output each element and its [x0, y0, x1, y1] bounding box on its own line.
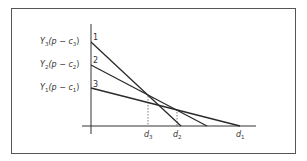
y-label-1: Y3(p − c3) [40, 37, 79, 47]
x-label-d2: d2 [173, 130, 182, 140]
x-label-d1: d1 [236, 130, 245, 140]
diagram-canvas: Y3(p − c3) Y2(p − c2) Y1(p − c1) 1 2 3 d… [0, 0, 307, 161]
line-3 [91, 88, 240, 126]
line-2 [91, 65, 207, 126]
x-label-d3: d3 [144, 130, 153, 140]
line-2-number: 2 [93, 56, 98, 65]
line-3-number: 3 [93, 80, 98, 89]
y-label-3: Y1(p − c1) [40, 83, 79, 93]
line-1-number: 1 [93, 33, 98, 42]
line-1 [91, 42, 181, 126]
y-label-2: Y2(p − c2) [40, 60, 79, 70]
